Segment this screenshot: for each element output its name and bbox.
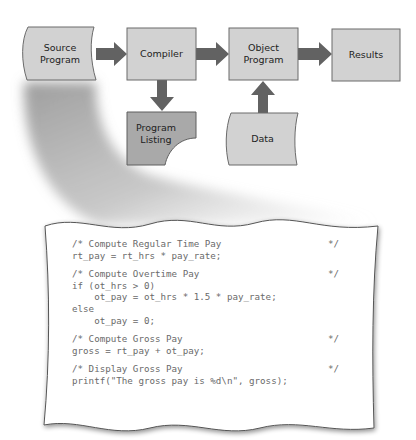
node-program-listing: Program Listing bbox=[128, 112, 184, 156]
program-listing-label-line2: Listing bbox=[136, 134, 176, 146]
code-line: rt_pay = rt_hrs * pay_rate; bbox=[72, 250, 372, 262]
comment-end: */ bbox=[328, 268, 339, 280]
code-text: gross = rt_pay + ot_pay; bbox=[72, 345, 205, 356]
code-text: if (ot_hrs > 0) bbox=[72, 280, 155, 291]
code-line: else bbox=[72, 303, 372, 315]
arrow-source-to-compiler bbox=[96, 42, 127, 66]
code-text: /* Compute Gross Pay bbox=[72, 333, 183, 344]
code-line: printf("The gross pay is %d\n", gross); bbox=[72, 375, 372, 387]
code-line: /* Display Gross Pay*/ bbox=[72, 363, 372, 375]
code-blank-line bbox=[72, 356, 372, 363]
code-blank-line bbox=[72, 261, 372, 268]
data-label: Data bbox=[251, 133, 274, 145]
object-program-label-line2: Program bbox=[243, 54, 283, 66]
code-text: else bbox=[72, 303, 94, 314]
code-text: /* Display Gross Pay bbox=[72, 363, 183, 374]
node-source-program: Source Program bbox=[24, 27, 96, 80]
source-program-label-line2: Program bbox=[40, 54, 80, 66]
arrow-data-to-object bbox=[251, 81, 275, 113]
code-line: ot_pay = 0; bbox=[72, 315, 372, 327]
code-text: ot_pay = ot_hrs * 1.5 * pay_rate; bbox=[72, 291, 277, 302]
code-line: if (ot_hrs > 0) bbox=[72, 280, 372, 292]
code-line: /* Compute Overtime Pay*/ bbox=[72, 268, 372, 280]
code-text: ot_pay = 0; bbox=[72, 315, 155, 326]
code-line: gross = rt_pay + ot_pay; bbox=[72, 345, 372, 357]
node-results: Results bbox=[332, 29, 400, 81]
comment-end: */ bbox=[328, 333, 339, 345]
arrow-object-to-results bbox=[298, 42, 332, 66]
source-program-label-line1: Source bbox=[40, 42, 80, 54]
object-program-label-line1: Object bbox=[243, 42, 283, 54]
node-object-program: Object Program bbox=[229, 28, 298, 80]
arrow-compiler-to-listing bbox=[150, 80, 174, 111]
program-listing-label-line1: Program bbox=[136, 122, 176, 134]
swoosh-shadow bbox=[24, 82, 380, 225]
compilation-diagram: Source Program Compiler Object Program R… bbox=[0, 0, 416, 440]
comment-end: */ bbox=[328, 238, 339, 250]
comment-end: */ bbox=[328, 363, 339, 375]
node-compiler: Compiler bbox=[127, 28, 196, 80]
node-data: Data bbox=[228, 113, 297, 165]
code-text: rt_pay = rt_hrs * pay_rate; bbox=[72, 250, 221, 261]
code-text: /* Compute Regular Time Pay bbox=[72, 238, 221, 249]
compiler-label: Compiler bbox=[140, 48, 183, 60]
results-label: Results bbox=[349, 49, 383, 61]
code-line: /* Compute Gross Pay*/ bbox=[72, 333, 372, 345]
code-blank-line bbox=[72, 326, 372, 333]
code-line: /* Compute Regular Time Pay*/ bbox=[72, 238, 372, 250]
code-text: printf("The gross pay is %d\n", gross); bbox=[72, 375, 288, 386]
arrow-compiler-to-object bbox=[196, 42, 229, 66]
code-listing: /* Compute Regular Time Pay*/rt_pay = rt… bbox=[72, 238, 372, 387]
code-line: ot_pay = ot_hrs * 1.5 * pay_rate; bbox=[72, 291, 372, 303]
code-text: /* Compute Overtime Pay bbox=[72, 268, 199, 279]
